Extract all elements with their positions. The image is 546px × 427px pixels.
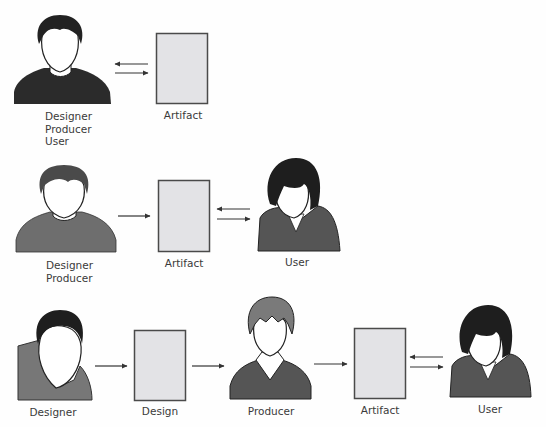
user-label: User — [478, 403, 502, 416]
artifact-label: Artifact — [361, 404, 400, 417]
person-user-icon — [258, 158, 340, 251]
label-user: User — [45, 135, 92, 148]
person-designer-producer-icon — [16, 165, 116, 252]
artifact-label: Artifact — [165, 257, 204, 270]
person-producer-icon — [230, 297, 311, 399]
designer-label: Designer — [29, 406, 76, 419]
artifact-document-icon — [159, 181, 210, 252]
label-designer: Designer — [45, 110, 92, 123]
person-designer-producer-user-icon — [14, 15, 111, 104]
person-label: Designer Producer — [46, 259, 93, 284]
person-user-icon — [450, 305, 531, 397]
artifact-document-icon — [157, 34, 208, 104]
label-producer: Producer — [45, 123, 92, 136]
person-designer-icon — [18, 310, 92, 400]
diagram-canvas: Designer Producer User Artifact Designer… — [0, 0, 546, 427]
artifact-document-icon — [355, 329, 406, 399]
person-label: Designer Producer User — [45, 110, 92, 148]
design-label: Design — [142, 405, 178, 418]
label-designer: Designer — [46, 259, 93, 272]
artifact-label: Artifact — [164, 109, 203, 122]
user-label: User — [285, 256, 309, 269]
producer-label: Producer — [248, 405, 295, 418]
design-document-icon — [135, 331, 186, 401]
label-producer: Producer — [46, 272, 93, 285]
